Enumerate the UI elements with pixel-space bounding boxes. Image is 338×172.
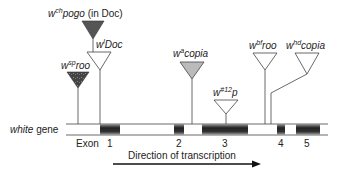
insertion-wa-copia: wacopia [173,47,208,124]
exon-number-2: 2 [176,138,182,149]
triangle-grey-icon [180,62,204,79]
exon-number-3: 3 [222,138,228,149]
insertion-w12-p: w#12p [213,86,238,124]
triangle-dark-icon [82,21,104,39]
triangle-open-icon [295,53,319,74]
svg-text:wlDoc: wlDoc [96,38,123,50]
insertion-whd-copia: whdcopia [271,39,325,124]
svg-text:w#12p: w#12p [213,86,238,98]
gene-bar [66,124,328,135]
triangle-speckled-icon [67,72,89,88]
exon-number-1: 1 [107,138,113,149]
exon-number-4: 4 [278,138,284,149]
exon-label: Exon [76,138,99,149]
exon-number-5: 5 [304,138,310,149]
direction-label: Direction of transcription [128,150,236,161]
insertion-wsp-roo: wsproo [61,59,91,124]
gene-label: white gene [10,124,59,135]
insertion-wl-doc: wlDoc [87,38,123,124]
svg-text:wacopia: wacopia [173,47,208,59]
svg-text:wbfroo: wbfroo [249,39,277,51]
exon-3 [202,124,248,135]
direction-arrow-icon [113,161,261,168]
exon-1 [100,124,120,135]
svg-text:whdcopia: whdcopia [286,39,325,51]
svg-text:wchpogo (in Doc): wchpogo (in Doc) [48,7,123,19]
triangle-open-icon [214,100,238,114]
exon-2 [174,124,184,135]
insertion-wbf-roo: wbfroo [249,39,277,124]
exon-5 [296,124,320,135]
exon-4 [277,124,285,135]
triangle-open-icon [253,53,277,70]
white-gene-insertion-diagram: white gene Exon 1 2 3 4 5 Direction of t… [0,0,338,172]
triangle-open-icon [87,52,111,70]
svg-text:wsproo: wsproo [61,59,91,71]
